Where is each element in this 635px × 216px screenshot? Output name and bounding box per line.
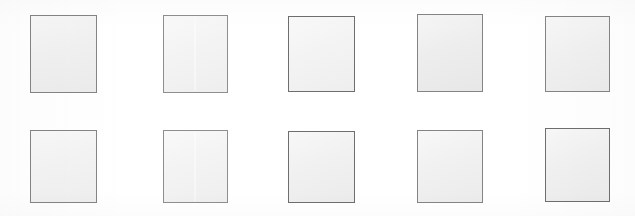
- blank-box: [545, 16, 610, 92]
- scanned-page: [0, 0, 635, 216]
- blank-box: [163, 130, 228, 203]
- blank-box: [288, 131, 355, 203]
- blank-box: [417, 130, 483, 203]
- blank-box: [417, 14, 483, 92]
- blank-box: [30, 15, 97, 93]
- blank-box: [163, 15, 228, 93]
- blank-box: [30, 130, 97, 203]
- blank-box: [288, 16, 355, 92]
- blank-box: [545, 128, 610, 202]
